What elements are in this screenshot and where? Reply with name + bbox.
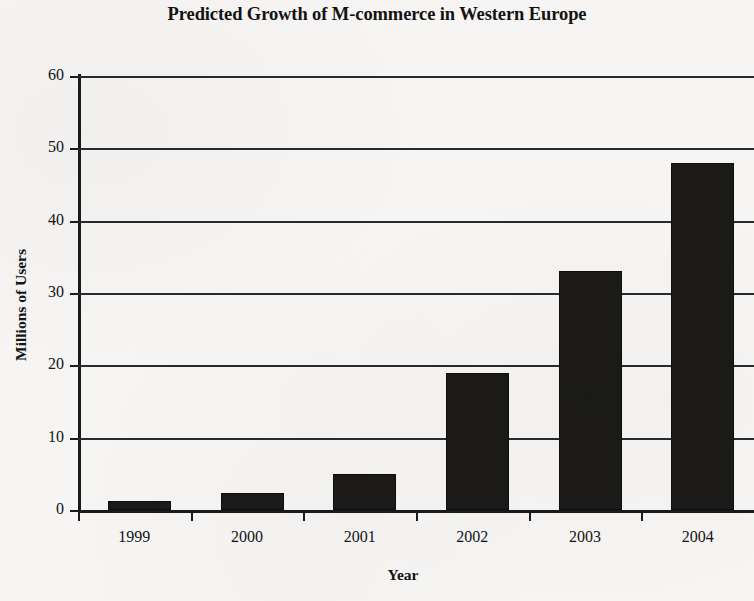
bar-2001 (333, 474, 396, 510)
bar-2004 (671, 163, 734, 510)
gridline-40 (78, 221, 754, 223)
plot-area: 0102030405060199920002001200220032004 (78, 76, 754, 510)
y-tick-mark-0 (70, 510, 78, 512)
y-tick-label-30: 30 (18, 283, 64, 301)
x-tick-mark-2002 (416, 510, 418, 521)
y-tick-label-0: 0 (18, 500, 64, 518)
x-tick-label-2004: 2004 (641, 528, 754, 546)
x-tick-mark-2004 (641, 510, 643, 521)
gridline-60 (78, 76, 754, 78)
bar-2003 (559, 271, 622, 510)
y-tick-mark-60 (70, 76, 78, 78)
gridline-30 (78, 293, 754, 295)
gridline-20 (78, 365, 754, 367)
x-tick-mark-2001 (303, 510, 305, 521)
gridline-50 (78, 148, 754, 150)
y-tick-label-40: 40 (18, 211, 64, 229)
y-tick-mark-20 (70, 365, 78, 367)
y-tick-label-50: 50 (18, 138, 64, 156)
gridline-10 (78, 438, 754, 440)
y-tick-mark-50 (70, 148, 78, 150)
bar-1999 (108, 501, 171, 510)
x-tick-label-2003: 2003 (529, 528, 642, 546)
y-tick-label-20: 20 (18, 355, 64, 373)
x-axis-title: Year (78, 566, 728, 584)
x-tick-label-2002: 2002 (416, 528, 529, 546)
x-tick-mark-2000 (191, 510, 193, 521)
x-tick-mark-1999 (78, 510, 80, 521)
x-tick-label-2001: 2001 (303, 528, 416, 546)
y-tick-mark-10 (70, 438, 78, 440)
y-tick-mark-40 (70, 221, 78, 223)
bar-2002 (446, 373, 509, 510)
x-tick-label-2000: 2000 (191, 528, 304, 546)
y-tick-mark-30 (70, 293, 78, 295)
y-tick-label-10: 10 (18, 428, 64, 446)
x-tick-label-1999: 1999 (78, 528, 191, 546)
x-tick-mark-2003 (529, 510, 531, 521)
y-tick-label-60: 60 (18, 66, 64, 84)
chart-figure: Predicted Growth of M-commerce in Wester… (0, 0, 754, 601)
bar-2000 (221, 493, 284, 510)
y-axis-title-text: Millions of Users (12, 249, 30, 361)
chart-title: Predicted Growth of M-commerce in Wester… (0, 4, 754, 25)
